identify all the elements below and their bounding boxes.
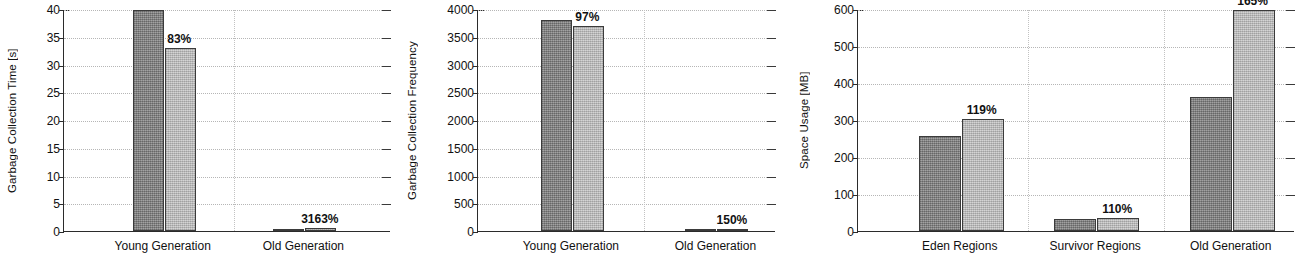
y-axis-tick-right (1286, 10, 1295, 11)
y-axis-tick-right (382, 66, 391, 67)
bar-baseline (541, 20, 572, 231)
bar-baseline (273, 229, 304, 231)
bar-comparison (1097, 218, 1139, 231)
bar-value-label: 110% (1102, 203, 1132, 215)
y-axis-tick-label: 1500 (447, 143, 474, 155)
three-panel-bar-chart-figure: Garbage Collection Time [s] 051015202530… (0, 0, 1306, 267)
y-axis-tick (473, 66, 478, 67)
x-axis-category-label: Old Generation (675, 240, 756, 252)
y-axis-tick-right (1286, 121, 1295, 122)
y-axis-tick (59, 66, 64, 67)
grid-line (64, 10, 390, 11)
y-axis-tick (59, 121, 64, 122)
y-axis-tick (59, 38, 64, 39)
y-axis-tick-right (767, 177, 776, 178)
y-axis-tick-right (382, 149, 391, 150)
y-axis-tick-label: 35 (47, 32, 60, 44)
bar-baseline (919, 136, 961, 231)
x-axis-category-label: Survivor Regions (1049, 240, 1140, 252)
y-axis-tick-right (382, 204, 391, 205)
grid-line (64, 93, 390, 94)
y-axis-tick-right (767, 38, 776, 39)
y-axis-tick-label: 400 (834, 78, 854, 90)
y-axis-tick (853, 195, 858, 196)
y-axis-tick-right (382, 38, 391, 39)
y-axis-tick-right (382, 121, 391, 122)
y-axis-tick (473, 149, 478, 150)
y-axis-tick-right (382, 177, 391, 178)
y-axis-tick-right (767, 149, 776, 150)
y-axis-tick-label: 40 (47, 4, 60, 16)
grid-line (478, 66, 775, 67)
y-axis-tick (59, 204, 64, 205)
bar-comparison (1233, 10, 1275, 231)
bar-value-label: 119% (967, 104, 997, 116)
bar-baseline (685, 229, 716, 231)
y-axis-tick (473, 121, 478, 122)
grid-line (64, 204, 390, 205)
y-axis-tick-right (767, 121, 776, 122)
grid-line (64, 66, 390, 67)
bar-value-label: 83% (167, 33, 191, 45)
grid-line (858, 10, 1294, 11)
y-axis-tick (59, 93, 64, 94)
grid-line (478, 38, 775, 39)
bar-baseline (1054, 219, 1096, 231)
y-axis-tick (853, 158, 858, 159)
y-axis-tick (473, 232, 478, 233)
y-axis-tick-label: 30 (47, 60, 60, 72)
grid-line (478, 177, 775, 178)
y-axis-tick (59, 149, 64, 150)
x-axis-category-label: Young Generation (523, 240, 619, 252)
y-axis-tick-right (1286, 158, 1295, 159)
y-axis-tick (59, 232, 64, 233)
y-axis-tick (59, 177, 64, 178)
bar-comparison (165, 48, 196, 231)
category-separator-grid (644, 10, 645, 231)
y-axis-tick-right (1286, 195, 1295, 196)
y-axis-tick-label: 10 (47, 171, 60, 183)
y-axis-tick (473, 204, 478, 205)
y-axis-tick-label: 2000 (447, 115, 474, 127)
y-axis-tick-label: 3000 (447, 60, 474, 72)
y-axis-tick (853, 84, 858, 85)
bar-baseline (133, 10, 164, 231)
y-axis-tick-label: 1000 (447, 171, 474, 183)
grid-line (478, 10, 775, 11)
bar-comparison (305, 228, 336, 231)
bar-value-label: 150% (717, 214, 748, 226)
y-axis-tick-label: 20 (47, 115, 60, 127)
y-axis-tick-right (382, 10, 391, 11)
bar-value-label: 165% (1237, 0, 1268, 7)
bar-comparison (573, 26, 604, 231)
chart-panel-gc-time: Garbage Collection Time [s] 051015202530… (0, 0, 400, 267)
y-axis-tick (853, 121, 858, 122)
bar-value-label: 97% (575, 11, 599, 23)
y-axis-tick-right (1286, 47, 1295, 48)
grid-line (64, 177, 390, 178)
bar-baseline (1190, 97, 1232, 231)
y-axis-tick-right (382, 93, 391, 94)
y-axis-tick-label: 500 (834, 41, 854, 53)
y-axis-tick-labels: 0510152025303540 (0, 0, 60, 267)
y-axis-tick-label: 15 (47, 143, 60, 155)
grid-line (858, 47, 1294, 48)
chart-panel-space-usage: Space Usage [MB] 0100200300400500600 Ede… (790, 0, 1306, 267)
bar-comparison (717, 229, 748, 231)
grid-line (478, 204, 775, 205)
bar-value-label: 3163% (301, 213, 338, 225)
y-axis-tick-label: 200 (834, 152, 854, 164)
y-axis-tick-right (767, 66, 776, 67)
y-axis-tick (853, 10, 858, 11)
y-axis-tick-label: 300 (834, 115, 854, 127)
y-axis-tick-right (767, 10, 776, 11)
y-axis-tick (853, 47, 858, 48)
y-axis-tick-labels: 0100200300400500600 (790, 0, 854, 267)
category-separator-grid (234, 10, 235, 231)
plot-area (63, 10, 390, 232)
y-axis-tick-label: 4000 (447, 4, 474, 16)
grid-line (478, 121, 775, 122)
y-axis-tick-label: 600 (834, 4, 854, 16)
chart-panel-gc-frequency: Garbage Collection Frequency 05001000150… (400, 0, 790, 267)
grid-line (478, 149, 775, 150)
